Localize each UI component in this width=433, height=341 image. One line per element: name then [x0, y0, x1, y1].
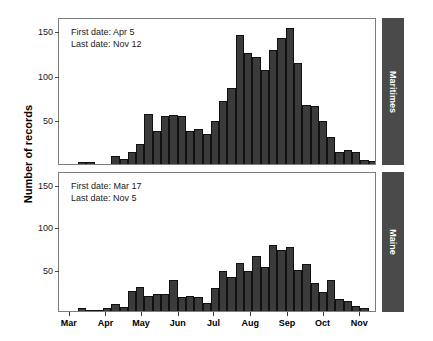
histogram-bar: [111, 156, 119, 164]
histogram-bar: [144, 296, 152, 311]
strip-label-maine-text: Maine: [388, 229, 398, 255]
x-tick-label: Mar: [61, 318, 77, 328]
histogram-bar: [128, 152, 136, 164]
histogram-bar: [344, 301, 352, 311]
histogram-bar: [95, 310, 103, 311]
panel-maritimes: First date: Apr 5 Last date: Nov 12 5010…: [58, 18, 376, 165]
histogram-bar: [120, 307, 128, 311]
x-tick-label: Aug: [241, 318, 259, 328]
x-tick-mark: [250, 312, 251, 316]
histogram-bar: [360, 160, 368, 164]
y-tick-mark: [55, 121, 59, 122]
y-tick-label: 50: [19, 116, 59, 126]
histogram-bar: [211, 121, 219, 164]
histogram-bar: [136, 287, 144, 311]
histogram-bar: [236, 263, 244, 311]
x-tick-mark: [213, 312, 214, 316]
histogram-bar: [277, 38, 285, 164]
histogram-bar: [144, 114, 152, 164]
histogram-bar: [178, 116, 186, 164]
x-tick-mark: [141, 312, 142, 316]
strip-label-maritimes-text: Maritimes: [388, 70, 398, 112]
histogram-bar: [327, 280, 335, 311]
x-tick-mark: [323, 312, 324, 316]
histogram-bar: [219, 101, 227, 164]
histogram-bar: [286, 247, 294, 311]
histogram-bar: [227, 88, 235, 164]
histogram-bar: [286, 28, 294, 164]
histogram-bar: [344, 150, 352, 164]
histogram-bar: [277, 250, 285, 311]
x-tick-label: Nov: [351, 318, 368, 328]
histogram-bar: [269, 50, 277, 164]
histogram-bar: [269, 245, 277, 311]
histogram-bar: [111, 304, 119, 311]
histogram-bar: [227, 277, 235, 311]
x-axis: MarAprMayJunJulAugSepOctNov: [58, 312, 376, 338]
y-tick-label: 100: [19, 223, 59, 233]
histogram-bar: [136, 144, 144, 164]
first-date-annotation-maine: First date: Mar 17: [71, 180, 142, 192]
x-tick-label: Oct: [315, 318, 330, 328]
histogram-figure: Number of records First date: Apr 5 Last…: [0, 0, 433, 341]
histogram-bar: [161, 294, 169, 311]
y-tick-label: 100: [19, 72, 59, 82]
histogram-bar: [252, 256, 260, 311]
histogram-bar: [319, 121, 327, 164]
histogram-bar: [86, 310, 94, 311]
x-tick-label: Apr: [98, 318, 114, 328]
histogram-bar: [327, 137, 335, 164]
histogram-bar: [78, 308, 86, 311]
histogram-bar: [261, 70, 269, 164]
histogram-bar: [186, 131, 194, 164]
x-tick-label: Jul: [207, 318, 220, 328]
y-tick-label: 150: [19, 181, 59, 191]
y-tick-mark: [55, 271, 59, 272]
histogram-bar: [211, 288, 219, 311]
histogram-bar: [352, 306, 360, 311]
last-date-annotation-maine: Last date: Nov 5: [71, 192, 137, 204]
y-tick-label: 50: [19, 266, 59, 276]
histogram-bar: [203, 134, 211, 164]
histogram-bar: [120, 159, 128, 164]
strip-label-maritimes: Maritimes: [382, 18, 404, 165]
histogram-bar: [311, 283, 319, 311]
histogram-bar: [244, 53, 252, 164]
y-tick-mark: [55, 228, 59, 229]
histogram-bar: [302, 264, 310, 311]
x-tick-mark: [287, 312, 288, 316]
histogram-bar: [244, 271, 252, 311]
x-tick-label: Sep: [279, 318, 296, 328]
strip-label-maine: Maine: [382, 172, 404, 312]
histogram-bar: [369, 161, 375, 164]
histogram-bar: [194, 129, 202, 164]
histogram-bar: [294, 270, 302, 311]
histogram-bar: [153, 294, 161, 311]
x-tick-mark: [105, 312, 106, 316]
histogram-bar: [294, 63, 302, 164]
histogram-bar: [335, 299, 343, 311]
x-tick-label: Jun: [170, 318, 186, 328]
histogram-bar: [252, 57, 260, 164]
histogram-bar: [236, 35, 244, 164]
histogram-bar: [219, 271, 227, 311]
histogram-bar: [78, 162, 86, 164]
first-date-annotation-maritimes: First date: Apr 5: [71, 26, 135, 38]
histogram-bar: [86, 162, 94, 164]
histogram-bar: [178, 297, 186, 311]
x-tick-label: May: [132, 318, 150, 328]
histogram-bar: [161, 116, 169, 164]
y-tick-mark: [55, 32, 59, 33]
y-axis-label: Number of records: [22, 74, 34, 234]
histogram-bar: [103, 308, 111, 311]
x-tick-mark: [69, 312, 70, 316]
histogram-bar: [203, 303, 211, 311]
histogram-bar: [261, 267, 269, 311]
histogram-bar: [335, 152, 343, 164]
panel-maine: First date: Mar 17 Last date: Nov 5 5010…: [58, 172, 376, 312]
histogram-bar: [319, 292, 327, 311]
y-tick-label: 150: [19, 27, 59, 37]
histogram-bar: [360, 308, 368, 311]
histogram-bar: [128, 291, 136, 311]
histogram-bar: [153, 131, 161, 164]
